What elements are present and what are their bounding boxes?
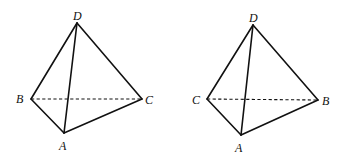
edge-da bbox=[64, 23, 77, 133]
edge-ac bbox=[64, 99, 142, 133]
tetrahedra-diagram: D B C A D C B A bbox=[0, 0, 344, 158]
vertex-label-c: C bbox=[192, 93, 201, 107]
tetrahedron-left: D B C A bbox=[16, 9, 154, 153]
edge-ba bbox=[31, 99, 64, 133]
vertex-label-c: C bbox=[145, 93, 154, 107]
tetrahedron-right: D C B A bbox=[192, 11, 330, 155]
vertex-label-d: D bbox=[72, 9, 82, 23]
vertex-label-d: D bbox=[248, 11, 258, 25]
vertex-label-b: B bbox=[322, 94, 330, 108]
edge-ab bbox=[241, 100, 318, 135]
edge-db bbox=[253, 25, 318, 100]
vertex-label-a: A bbox=[234, 141, 243, 155]
hidden-edge-cb bbox=[207, 99, 318, 100]
vertex-label-a: A bbox=[58, 139, 67, 153]
vertex-label-b: B bbox=[16, 92, 24, 106]
edge-dc bbox=[77, 23, 142, 99]
edge-ca bbox=[207, 99, 241, 135]
